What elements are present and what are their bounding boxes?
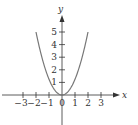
y-tick-label: 4 xyxy=(51,40,57,50)
parabola-chart: −3−2−10123 12345 x y xyxy=(0,0,138,125)
y-tick-label: 3 xyxy=(51,52,57,62)
axes xyxy=(2,20,116,125)
x-tick-label: −2 xyxy=(27,98,40,108)
x-tick-labels: −3−2−10123 xyxy=(14,98,104,108)
x-tick-label: 2 xyxy=(85,98,91,108)
x-tick-label: −3 xyxy=(14,98,28,108)
y-tick-label: 5 xyxy=(51,27,57,37)
y-axis-arrow-icon xyxy=(60,15,65,22)
x-axis-arrow-icon xyxy=(113,93,120,98)
x-axis-label: x xyxy=(122,90,127,100)
x-tick-label: 1 xyxy=(72,98,78,108)
x-tick-label: 0 xyxy=(59,98,65,108)
y-axis-label: y xyxy=(57,4,64,14)
x-tick-label: 3 xyxy=(98,98,104,108)
y-tick-labels: 12345 xyxy=(51,27,57,87)
x-tick-label: −1 xyxy=(40,98,53,108)
y-tick-label: 2 xyxy=(51,65,57,75)
